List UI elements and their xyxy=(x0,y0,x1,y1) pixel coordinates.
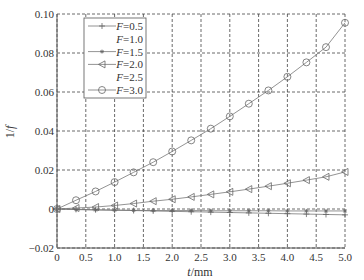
tick-labels: 00.51.01.52.02.53.03.54.04.55.0−0.0200.0… xyxy=(29,8,353,263)
y-tick-label: −0.02 xyxy=(29,242,54,254)
x-tick-label: 3.0 xyxy=(223,251,237,263)
data-point-marker xyxy=(304,209,308,213)
data-point-marker xyxy=(113,208,117,212)
data-point-marker xyxy=(151,209,155,213)
legend-marker-icon xyxy=(100,50,104,54)
x-tick-label: 4.0 xyxy=(281,251,295,263)
data-point-marker xyxy=(266,209,270,213)
y-tick-label: 0.06 xyxy=(35,86,55,98)
data-point-marker xyxy=(228,209,232,213)
x-tick-label: 2.0 xyxy=(165,251,179,263)
y-tick-label: 0 xyxy=(49,203,55,215)
data-point-marker xyxy=(189,209,193,213)
x-tick-label: 2.5 xyxy=(194,251,208,263)
x-axis-label: t/mm xyxy=(187,265,213,279)
legend-item: F=2.5 xyxy=(115,71,143,83)
y-tick-label: 0.10 xyxy=(35,8,55,20)
x-tick-label: 0 xyxy=(54,251,60,263)
y-axis-label: 1/f xyxy=(3,124,17,138)
data-point-marker xyxy=(324,209,328,213)
data-point-marker xyxy=(343,209,347,213)
x-tick-label: 0.5 xyxy=(79,251,93,263)
legend-label: F=3.0 xyxy=(115,84,143,96)
x-tick-label: 3.5 xyxy=(252,251,266,263)
data-point-marker xyxy=(170,209,174,213)
data-point-marker xyxy=(209,209,213,213)
legend-label: F=2.5 xyxy=(115,71,143,83)
y-tick-label: 0.08 xyxy=(35,47,55,59)
legend-item: F=1.0 xyxy=(115,33,143,45)
data-point-marker xyxy=(247,209,251,213)
legend-label: F=2.0 xyxy=(115,58,143,70)
data-point-marker xyxy=(285,209,289,213)
x-tick-label: 5.0 xyxy=(338,251,352,263)
x-tick-label: 1.0 xyxy=(108,251,122,263)
legend-label: F=1.5 xyxy=(115,46,143,58)
y-tick-label: 0.02 xyxy=(35,164,54,176)
x-tick-label: 4.5 xyxy=(309,251,323,263)
legend-label: F=1.0 xyxy=(115,33,143,45)
legend: F=0.5F=1.0F=1.5F=2.0F=2.5F=3.0 xyxy=(84,18,146,98)
legend-label: F=0.5 xyxy=(115,20,143,32)
y-tick-label: 0.04 xyxy=(35,125,55,137)
chart: 00.51.01.52.02.53.03.54.04.55.0−0.0200.0… xyxy=(0,0,364,280)
x-tick-label: 1.5 xyxy=(137,251,151,263)
data-point-marker xyxy=(132,208,136,212)
